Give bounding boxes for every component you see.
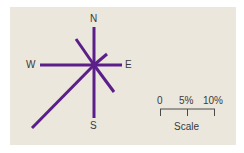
ray-southeast: [94, 65, 114, 92]
ray-northwest: [76, 39, 94, 65]
center-point: [91, 62, 97, 68]
scale-tick-10: 10%: [203, 96, 223, 106]
label-north: N: [90, 14, 97, 24]
scale-bar: [160, 109, 215, 116]
label-east: E: [125, 60, 132, 70]
scale-tick-0: 0: [157, 96, 163, 106]
label-west: W: [26, 60, 35, 70]
scale-tick-5: 5%: [179, 96, 193, 106]
scale-title: Scale: [174, 122, 199, 132]
ray-southwest: [32, 65, 94, 128]
label-south: S: [90, 121, 97, 131]
wind-rose-graphic: [0, 0, 244, 153]
